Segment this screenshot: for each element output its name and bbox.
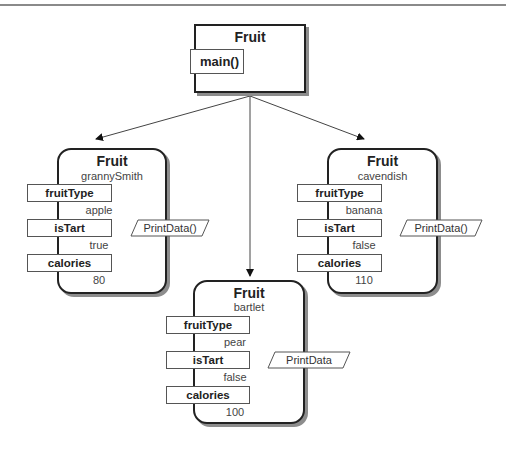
object-name: cavendish [329,170,436,182]
field-value: banana [329,204,399,216]
method-printdata: PrintData [267,351,351,369]
method-printdata: PrintData() [130,219,210,237]
field-label: fruitType [297,184,382,202]
object-class-title: Fruit [59,153,165,169]
field-label: calories [27,254,112,272]
field-value: 110 [329,274,399,286]
field-label: fruitType [27,184,112,202]
method-label: PrintData() [414,222,467,234]
field-value: pear [195,336,275,348]
object-name: grannySmith [59,170,165,182]
method-label: PrintData() [143,222,196,234]
arrow-to-cavendish [250,96,364,139]
object-class-title: Fruit [195,285,303,301]
field-value: false [329,239,399,251]
field-label: fruitType [166,316,250,334]
field-label: calories [166,386,250,404]
field-label: isTart [297,219,382,237]
main-method: main() [190,49,244,74]
field-value: 80 [59,274,139,286]
field-value: false [195,371,275,383]
arrow-to-grannysmith [96,96,250,139]
field-label: calories [297,254,382,272]
object-name: bartlet [195,301,303,313]
field-value: apple [59,204,139,216]
field-label: isTart [27,219,112,237]
class-title: Fruit [196,29,304,45]
method-label: PrintData [286,354,332,366]
field-label: isTart [166,351,250,369]
field-value: 100 [195,406,275,418]
field-value: true [59,239,139,251]
method-printdata: PrintData() [399,219,483,237]
object-class-title: Fruit [329,153,436,169]
